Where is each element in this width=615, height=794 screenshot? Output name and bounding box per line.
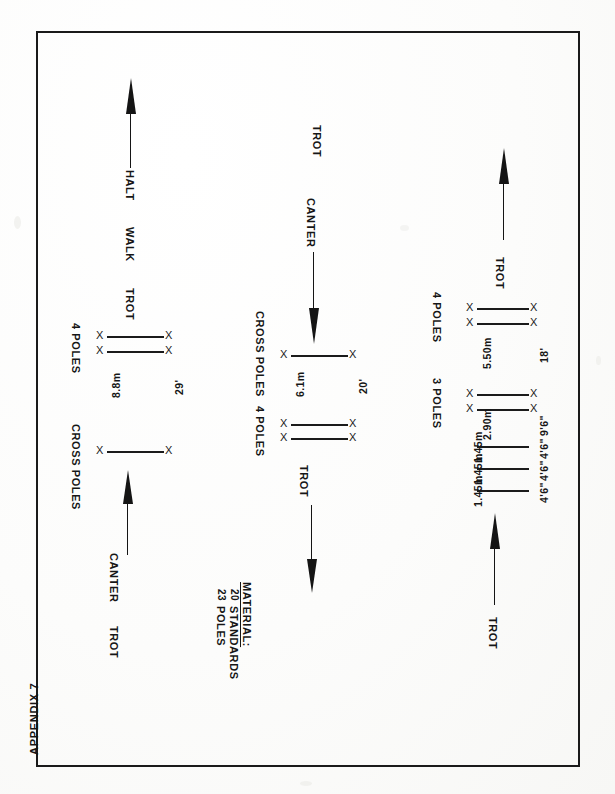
arrow-shaft [494, 546, 495, 605]
pole [291, 355, 348, 357]
standard-x: X [349, 432, 356, 443]
arrow-shaft [127, 501, 128, 555]
standard-x: X [96, 330, 103, 341]
standard-x: X [280, 418, 287, 429]
standard-x: X [280, 349, 287, 360]
standard-x: X [165, 445, 172, 456]
distance-imperial: 20' [357, 379, 369, 394]
distance-imperial: 4'6" [538, 438, 550, 459]
distance-imperial: 9'6" [538, 415, 550, 436]
pole [477, 323, 529, 325]
pole [477, 468, 529, 470]
label-walk: WALK [124, 227, 136, 262]
label-4-poles-middle: 4 POLES [254, 406, 266, 457]
pole [477, 308, 529, 310]
standard-x: X [165, 345, 172, 356]
distance-imperial: 4'6" [538, 482, 550, 503]
trot-arrow-down [303, 505, 321, 593]
label-trot-middle-bottom: TROT [298, 465, 310, 497]
arrow-head-up [486, 513, 504, 549]
pole [477, 490, 529, 492]
trot-arrow-up-top [495, 148, 513, 240]
material-count-poles: 23 [216, 589, 227, 601]
pole [477, 446, 529, 448]
arrow-shaft [130, 111, 131, 168]
material-item-poles: POLES [215, 606, 227, 646]
arrow-head-up [495, 148, 513, 184]
material-count-standards: 20 [229, 589, 240, 601]
pole [477, 394, 529, 396]
canter-arrow-down [305, 252, 323, 344]
standard-x: X [530, 388, 537, 399]
distance-metric: 5.50m [481, 337, 493, 369]
standard-x: X [466, 317, 473, 328]
label-trot-right-bottom: TROT [487, 617, 499, 649]
label-trot-left-bottom: TROT [108, 626, 120, 658]
arrow-head-down [303, 559, 321, 593]
halt-arrow-up [122, 78, 140, 168]
material-item-standards: STANDARDS [228, 606, 240, 680]
distance-metric: 6.1m [294, 371, 306, 397]
label-cross-poles-left: CROSS POLES [70, 424, 82, 510]
label-canter-middle: CANTER [305, 198, 317, 247]
standard-x: X [530, 302, 537, 313]
arrow-shaft [313, 252, 314, 310]
standard-x: X [530, 403, 537, 414]
pole [291, 424, 348, 426]
label-trot-middle-top: TROT [311, 125, 323, 157]
arrow-head-down [305, 308, 323, 344]
distance-imperial: 29' [173, 380, 185, 395]
material-heading: MATERIAL: [241, 582, 253, 647]
scan-speckle [596, 356, 601, 365]
distance-imperial: 18' [538, 348, 550, 363]
canter-arrow-up [119, 470, 137, 555]
label-4-poles-right: 4 POLES [431, 292, 443, 343]
pole [107, 336, 164, 338]
arrow-head-up [122, 78, 140, 114]
label-canter-left: CANTER [108, 553, 120, 602]
arrow-shaft [503, 181, 504, 240]
label-cross-poles-middle: CROSS POLES [254, 311, 266, 397]
document-page: APPENDIX 7 HALT WALK TROT 4 POLES X X X … [0, 0, 615, 794]
scan-speckle [300, 781, 312, 786]
standard-x: X [280, 432, 287, 443]
standard-x: X [96, 345, 103, 356]
arrow-head-up [119, 470, 137, 504]
appendix-label: APPENDIX 7 [28, 683, 40, 755]
pole [291, 438, 348, 440]
standard-x: X [349, 418, 356, 429]
label-halt: HALT [124, 170, 136, 201]
standard-x: X [530, 317, 537, 328]
standard-x: X [165, 330, 172, 341]
label-trot: TROT [124, 288, 136, 320]
arrow-shaft [311, 505, 312, 561]
distance-imperial: 4'6" [538, 460, 550, 481]
pole [107, 351, 164, 353]
standard-x: X [466, 302, 473, 313]
standard-x: X [466, 388, 473, 399]
label-trot-right-top: TROT [494, 257, 506, 289]
standard-x: X [466, 403, 473, 414]
scan-speckle [14, 216, 21, 229]
pole [107, 451, 164, 453]
trot-arrow-up-bottom [486, 513, 504, 605]
label-3-poles-right: 3 POLES [431, 378, 443, 429]
distance-metric: 1.45m [472, 475, 484, 507]
label-4-poles-left: 4 POLES [70, 323, 82, 374]
standard-x: X [349, 349, 356, 360]
standard-x: X [96, 445, 103, 456]
distance-metric: 8.8m [110, 372, 122, 398]
